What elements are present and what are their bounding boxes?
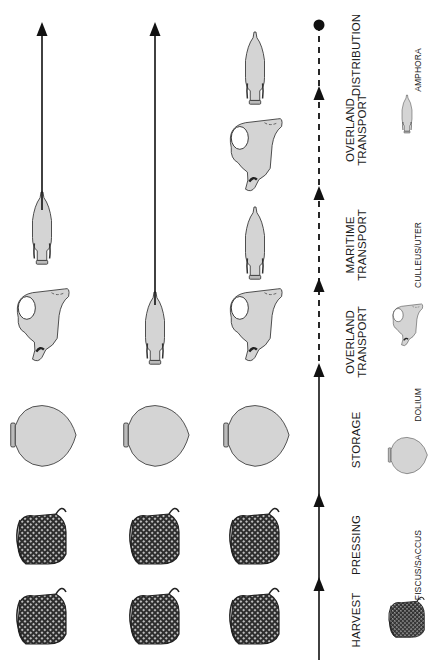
fiscus-icon	[130, 508, 179, 564]
dolium-icon	[224, 406, 289, 467]
stage-label-overland1: OVERLANDTRANSPORT	[344, 306, 368, 378]
legend-fiscus-icon	[389, 597, 424, 637]
legend-dolium-icon	[388, 437, 427, 473]
legend-culleus-icon	[393, 304, 423, 346]
timeline	[314, 20, 325, 661]
legend-label-amphora: AMPHORA	[413, 48, 423, 92]
timeline-arrowhead-icon	[314, 493, 325, 507]
timeline-arrowhead-icon	[314, 186, 325, 200]
legend-amphora-icon	[402, 95, 412, 133]
stage-label-line: HARVEST	[350, 593, 362, 648]
fiscus-icon	[17, 508, 66, 564]
diagram-svg	[0, 0, 444, 666]
stage-label-line: DISTRIBUTION	[350, 14, 362, 96]
stage-label-line: STORAGE	[350, 412, 362, 469]
amphora-icon	[246, 32, 265, 104]
legend-label-culleus: CULLEUS/UTER	[413, 222, 423, 288]
row-left	[11, 22, 76, 644]
timeline-arrowhead-icon	[314, 363, 325, 377]
dolium-icon	[124, 406, 189, 467]
culleus-icon	[230, 289, 282, 361]
amphora-icon	[246, 207, 265, 279]
stage-label-line: OVERLAND	[344, 306, 356, 378]
fiscus-icon	[230, 508, 279, 564]
stage-label-maritime: MARITIMETRANSPORT	[344, 209, 368, 281]
stage-label-overland2: OVERLANDTRANSPORT	[344, 94, 368, 166]
timeline-arrowhead-icon	[314, 86, 325, 100]
stage-label-line: TRANSPORT	[356, 209, 368, 281]
row-arrowhead-icon	[150, 22, 161, 36]
stage-label-pressing: PRESSING	[350, 515, 362, 575]
vessel-rows	[11, 22, 289, 644]
diagram-canvas: HARVESTPRESSINGSTORAGEOVERLANDTRANSPORTM…	[0, 0, 444, 666]
fiscus-icon	[130, 588, 179, 644]
stage-label-line: PRESSING	[350, 515, 362, 575]
dolium-icon	[11, 406, 76, 467]
culleus-icon	[17, 289, 69, 361]
stage-label-line: TRANSPORT	[356, 94, 368, 166]
row-middle	[124, 22, 189, 644]
fiscus-icon	[17, 588, 66, 644]
stage-label-storage: STORAGE	[350, 412, 362, 469]
culleus-icon	[230, 119, 282, 191]
timeline-arrowhead-icon	[314, 278, 325, 292]
timeline-end-dot	[314, 20, 325, 31]
legend-label-dolium: DOLIUM	[413, 388, 423, 422]
stage-label-line: TRANSPORT	[356, 306, 368, 378]
stage-label-line: MARITIME	[344, 209, 356, 281]
stage-label-harvest: HARVEST	[350, 593, 362, 648]
stage-label-distribution: DISTRIBUTION	[350, 14, 362, 96]
stage-label-line: OVERLAND	[344, 94, 356, 166]
legend-label-fiscus: FISCUS/SACCUS	[413, 530, 423, 600]
timeline-arrowhead-icon	[314, 577, 325, 591]
fiscus-icon	[230, 588, 279, 644]
row-right	[224, 32, 289, 644]
row-arrowhead-icon	[37, 22, 48, 36]
